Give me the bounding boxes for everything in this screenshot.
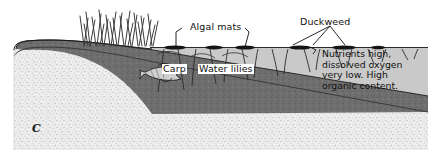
figure-canvas: Algal mats Duckweed Carp Water lilies Nu… [0, 0, 442, 166]
callout-text: Nutrients high, dissolved oxygen very lo… [322, 49, 434, 91]
label-algal-mats: Algal mats [190, 22, 241, 32]
emergent-reeds [80, 10, 158, 46]
panel-letter: C [32, 122, 41, 135]
label-water-lilies: Water lilies [198, 64, 254, 74]
label-carp: Carp [162, 64, 187, 74]
algal-mat-patches [164, 46, 255, 50]
duckweed-leader-lines [293, 26, 345, 45]
label-duckweed: Duckweed [300, 17, 350, 27]
